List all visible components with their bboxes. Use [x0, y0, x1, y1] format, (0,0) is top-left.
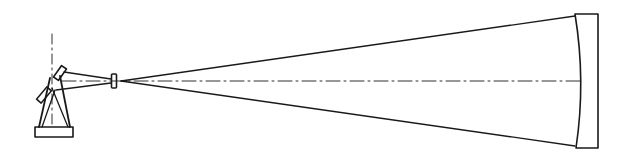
- instrument-base: [35, 127, 73, 137]
- beam-upper: [121, 16, 575, 81]
- optical-diagram: [0, 0, 628, 154]
- beam-lower: [121, 81, 575, 146]
- beam-in-lower: [56, 83, 111, 90]
- upper-mirror: [54, 66, 67, 81]
- lower-mirror: [37, 87, 52, 103]
- beam-in-upper: [64, 72, 111, 79]
